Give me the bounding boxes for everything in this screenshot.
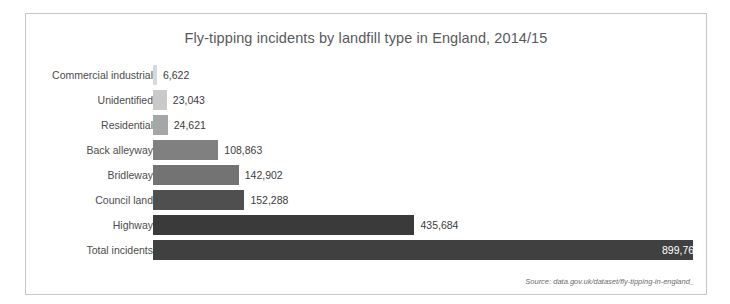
bar (153, 90, 167, 110)
bar-row: Total incidents899,763 (26, 237, 708, 262)
bar-row: Bridleway142,902 (26, 162, 708, 187)
bar (153, 165, 239, 185)
bar (153, 215, 414, 235)
chart-card: Fly-tipping incidents by landfill type i… (25, 13, 707, 295)
bar-value-label: 435,684 (420, 219, 458, 231)
bar-chart-plot-area: Commercial industrial6,622Unidentified23… (26, 62, 708, 262)
bar-track: 435,684 (153, 215, 708, 235)
source-attribution: Source: data.gov.uk/dataset/fly-tipping-… (525, 277, 694, 286)
bar-track: 142,902 (153, 165, 708, 185)
bar-category-label: Bridleway (107, 169, 153, 181)
bar-row: Back alleyway108,863 (26, 137, 708, 162)
bar-track: 108,863 (153, 140, 708, 160)
bar (153, 240, 693, 260)
bar (153, 190, 244, 210)
chart-title: Fly-tipping incidents by landfill type i… (26, 30, 706, 46)
bar-track: 6,622 (153, 65, 708, 85)
bar-category-label: Unidentified (98, 94, 153, 106)
bar-row: Residential24,621 (26, 112, 708, 137)
bar-track: 899,763 (153, 240, 708, 260)
bar-value-label: 6,622 (163, 69, 189, 81)
bar (153, 115, 168, 135)
bar-row: Highway435,684 (26, 212, 708, 237)
bar-category-label: Council land (95, 194, 153, 206)
bar-category-label: Residential (101, 119, 153, 131)
bar-value-label: 899,763 (662, 244, 700, 256)
bar-row: Council land152,288 (26, 187, 708, 212)
bar-category-label: Highway (113, 219, 153, 231)
bar-value-label: 108,863 (224, 144, 262, 156)
bar-track: 24,621 (153, 115, 708, 135)
bar-category-label: Commercial industrial (52, 69, 153, 81)
bar (153, 140, 218, 160)
bar-value-label: 23,043 (173, 94, 205, 106)
bar-track: 23,043 (153, 90, 708, 110)
bar-category-label: Back alleyway (86, 144, 153, 156)
bar-track: 152,288 (153, 190, 708, 210)
bar-value-label: 24,621 (174, 119, 206, 131)
bar-value-label: 152,288 (250, 194, 288, 206)
bar-category-label: Total incidents (86, 244, 153, 256)
bar (153, 65, 157, 85)
bar-row: Unidentified23,043 (26, 87, 708, 112)
bar-value-label: 142,902 (245, 169, 283, 181)
bar-row: Commercial industrial6,622 (26, 62, 708, 87)
